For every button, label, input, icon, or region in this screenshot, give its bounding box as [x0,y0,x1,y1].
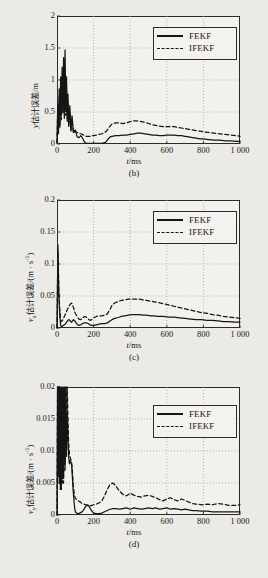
legend-row-ifekf: IFEKF [157,226,232,238]
y-axis-label-c: vx估计误差/(m · s-1) [23,253,37,322]
x-tick-label: 800 [183,518,223,526]
legend-label-ifekf: IFEKF [189,43,214,53]
y-tick-label: 0.02 [40,383,55,391]
legend-line-dashed-icon [157,232,183,233]
legend-label-fekf: FEKF [189,409,211,419]
legend-label-ifekf: IFEKF [189,421,214,431]
x-tick-label: 600 [147,147,187,155]
caption-d: (d) [0,539,268,549]
x-tick-label: 0 [37,147,77,155]
legend-c: FEKF IFEKF [153,211,237,244]
y-tick-label: 0.05 [40,292,55,300]
series-line-ifekf [57,68,240,142]
x-tick-label: 200 [74,147,114,155]
x-tick-label: 1 000 [220,518,260,526]
legend-row-ifekf: IFEKF [157,420,232,432]
x-tick-label: 400 [110,331,150,339]
x-tick-label: 600 [147,518,187,526]
y-tick-label: 0.005 [36,479,55,487]
legend-b: FEKF IFEKF [153,27,237,60]
y-axis-label-b: y估计误差/m [28,83,40,128]
y-tick-label: 0.2 [45,196,55,204]
chart-panel-c: vx估计误差/(m · s-1) 00.050.10.150.202004006… [0,186,268,374]
legend-row-fekf: FEKF [157,408,232,420]
y-tick-label: 1 [51,76,55,84]
y-tick-label: 0.015 [36,415,55,423]
x-tick-label: 200 [74,518,114,526]
chart-panel-b: y估计误差/m 00.511.5202004006008001 000 FEKF… [0,0,268,185]
y-tick-label: 0.1 [45,260,55,268]
legend-line-solid-icon [157,219,183,220]
legend-line-solid-icon [157,413,183,414]
x-axis-label-d: t/ms [0,527,268,537]
chart-panel-d: vy估计误差/(m · s-1) 00.0050.010.0150.020200… [0,374,268,578]
legend-row-ifekf: IFEKF [157,42,232,54]
x-axis-label-c: t/ms [0,340,268,350]
series-line-fekf [57,50,240,143]
legend-d: FEKF IFEKF [153,405,237,438]
x-axis-label-b: t/ms [0,156,268,166]
y-tick-label: 2 [51,12,55,20]
y-tick-label: 0.01 [40,447,55,455]
legend-label-ifekf: IFEKF [189,227,214,237]
x-tick-label: 400 [110,147,150,155]
x-tick-label: 600 [147,331,187,339]
legend-line-dashed-icon [157,48,183,49]
caption-c: (c) [0,352,268,362]
y-tick-label: 1.5 [45,44,55,52]
y-tick-label: 0.15 [40,228,55,236]
x-tick-label: 200 [74,331,114,339]
figure-page: y估计误差/m 00.511.5202004006008001 000 FEKF… [0,0,268,578]
x-tick-label: 0 [37,331,77,339]
x-tick-label: 0 [37,518,77,526]
legend-row-fekf: FEKF [157,30,232,42]
x-tick-label: 800 [183,331,223,339]
legend-label-fekf: FEKF [189,215,211,225]
x-tick-label: 1 000 [220,147,260,155]
caption-b: (b) [0,168,268,178]
legend-label-fekf: FEKF [189,31,211,41]
legend-line-solid-icon [157,35,183,36]
x-tick-label: 400 [110,518,150,526]
x-tick-label: 1 000 [220,331,260,339]
y-axis-label-d: vy估计误差/(m · s-1) [23,445,37,514]
legend-line-dashed-icon [157,426,183,427]
legend-row-fekf: FEKF [157,214,232,226]
y-tick-label: 0.5 [45,108,55,116]
x-tick-label: 800 [183,147,223,155]
